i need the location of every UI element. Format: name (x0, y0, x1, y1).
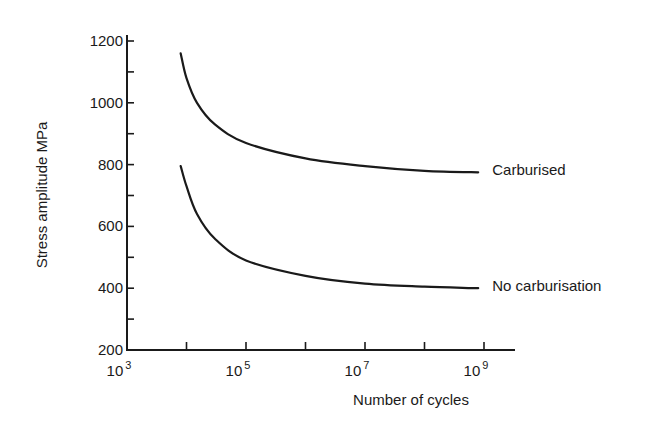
x-tick-label: 107 (345, 359, 370, 379)
y-tick-label: 400 (98, 279, 123, 296)
axes (126, 35, 515, 350)
series-label-no-carburisation: No carburisation (492, 277, 601, 294)
y-tick-label: 200 (98, 341, 123, 358)
y-tick-label: 600 (98, 217, 123, 234)
curve-carburised (181, 53, 479, 172)
curve-no-carburisation (181, 166, 479, 288)
x-axis-label: Number of cycles (353, 391, 469, 408)
x-axis-ticks: 103105107109 (107, 342, 489, 379)
sn-fatigue-chart: 20040060080010001200 103105107109 Carbur… (0, 0, 667, 432)
x-tick-label: 105 (226, 359, 251, 379)
series-curves: CarburisedNo carburisation (181, 53, 602, 294)
y-tick-label: 800 (98, 156, 123, 173)
y-tick-label: 1000 (90, 94, 123, 111)
x-tick-label: 103 (107, 359, 132, 379)
y-tick-label: 1200 (90, 32, 123, 49)
y-axis-label: Stress amplitude MPa (33, 121, 50, 268)
x-tick-label: 109 (464, 359, 489, 379)
series-label-carburised: Carburised (492, 161, 565, 178)
